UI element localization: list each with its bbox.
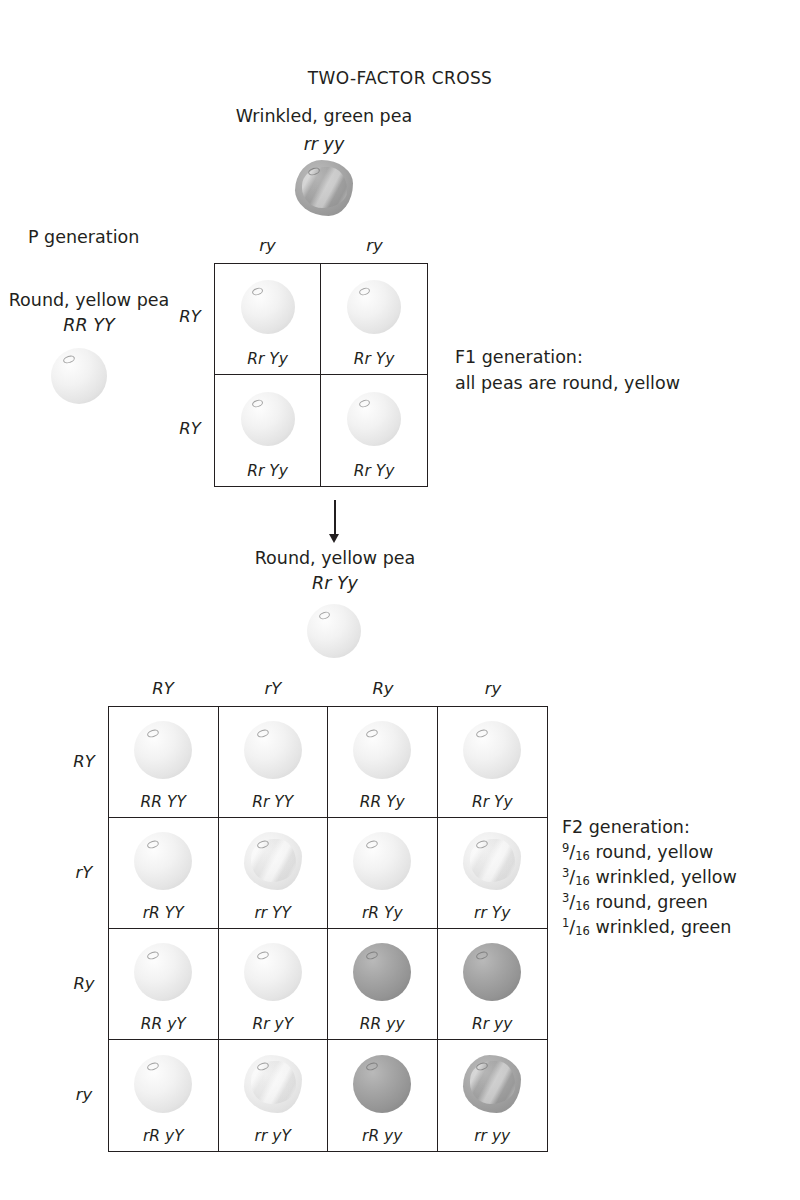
punnett-cell: Rr YY	[219, 707, 329, 818]
punnett-cell: Rr Yy	[321, 264, 427, 375]
fraction-numerator: 3	[562, 891, 569, 905]
punnett-cell-pea-slot	[463, 818, 521, 904]
fraction-numerator: 9	[562, 841, 569, 855]
punnett-cell-genotype: rR YY	[143, 904, 184, 922]
punnett-cell-genotype: Rr Yy	[354, 462, 395, 480]
fraction-numerator: 3	[562, 866, 569, 880]
cross1-row-header-0: RY	[172, 307, 208, 326]
punnett-cell-genotype: RR Yy	[360, 793, 405, 811]
f2-caption: F2 generation: 9/16 round, yellow3/16 wr…	[562, 815, 737, 940]
punnett-cell-pea-slot	[347, 375, 401, 462]
punnett-cell-pea-slot	[353, 707, 411, 793]
punnett-cell-pea-slot	[241, 264, 295, 350]
punnett-cell-pea-slot	[244, 929, 302, 1015]
cross2-row-header-2: Ry	[66, 974, 102, 993]
punnett-cell-genotype: Rr Yy	[247, 350, 288, 368]
fraction-denominator: 16	[575, 924, 590, 938]
round-yellow-pea	[241, 392, 295, 446]
round-yellow-pea	[353, 832, 411, 890]
punnett-cell-genotype: Rr Yy	[354, 350, 395, 368]
f2-caption-heading: F2 generation:	[562, 815, 737, 840]
punnett-cell-genotype: rr yy	[474, 1127, 510, 1145]
punnett-cell: Rr yy	[438, 929, 548, 1040]
punnett-cell: rr YY	[219, 818, 329, 929]
cross1-punnett-square: Rr YyRr YyRr YyRr Yy	[214, 263, 428, 487]
punnett-cell-pea-slot	[347, 264, 401, 350]
round-green-pea	[353, 1055, 411, 1113]
punnett-cell-pea-slot	[244, 1040, 302, 1127]
round-yellow-pea	[347, 280, 401, 334]
left-parent-pea	[51, 348, 107, 404]
punnett-cell: RR Yy	[328, 707, 438, 818]
top-parent-pea	[295, 160, 353, 216]
punnett-cell-genotype: rR yy	[362, 1127, 402, 1145]
p-generation-label: P generation	[28, 225, 139, 250]
punnett-cell-genotype: Rr YY	[252, 793, 293, 811]
punnett-cell: Rr Yy	[215, 375, 321, 486]
cross2-col-header-1: rY	[218, 679, 328, 698]
cross1-col-header-1: ry	[321, 236, 428, 255]
top-parent-genotype: rr yy	[124, 134, 524, 154]
arrow-shaft	[334, 500, 336, 537]
cross1-row-header-1: RY	[172, 419, 208, 438]
punnett-cell: Rr yY	[219, 929, 329, 1040]
round-yellow-pea	[134, 832, 192, 890]
cross2-col-header-2: Ry	[328, 679, 438, 698]
diagram-title: TWO-FACTOR CROSS	[0, 68, 800, 88]
wrinkled-yellow-pea	[244, 1055, 302, 1113]
punnett-cell-pea-slot	[353, 1040, 411, 1127]
f1-caption-line2: all peas are round, yellow	[455, 371, 680, 396]
punnett-cell-genotype: Rr Yy	[247, 462, 288, 480]
punnett-cell: rR yy	[328, 1040, 438, 1151]
punnett-cell-pea-slot	[244, 818, 302, 904]
punnett-cell-genotype: rR yY	[143, 1127, 184, 1145]
punnett-cell: rR yY	[109, 1040, 219, 1151]
round-yellow-pea	[244, 721, 302, 779]
punnett-cell: rR Yy	[328, 818, 438, 929]
f2-ratio-phenotype: wrinkled, yellow	[590, 867, 737, 887]
punnett-cell: rR YY	[109, 818, 219, 929]
punnett-cell-pea-slot	[134, 707, 192, 793]
fraction: 3/16	[562, 892, 590, 912]
punnett-cell: Rr Yy	[438, 707, 548, 818]
fraction: 1/16	[562, 917, 590, 937]
punnett-cell: Rr Yy	[321, 375, 427, 486]
f1-caption-line1: F1 generation:	[455, 345, 583, 370]
round-yellow-pea	[241, 280, 295, 334]
top-parent-phenotype: Wrinkled, green pea	[124, 104, 524, 129]
round-green-pea	[353, 943, 411, 1001]
punnett-cell-genotype: rr yY	[255, 1127, 291, 1145]
punnett-cell-genotype: RR YY	[141, 793, 186, 811]
f2-ratio-item: 9/16 round, yellow	[562, 840, 737, 865]
round-yellow-pea	[347, 392, 401, 446]
punnett-cell-genotype: Rr yy	[472, 1015, 512, 1033]
punnett-cell-genotype: Rr Yy	[472, 793, 513, 811]
punnett-cell-genotype: RR yy	[360, 1015, 405, 1033]
punnett-cell: rr Yy	[438, 818, 548, 929]
punnett-cell: Rr Yy	[215, 264, 321, 375]
punnett-cell-genotype: rr Yy	[474, 904, 510, 922]
cross2-punnett-square: RR YYRr YYRR YyRr YyrR YYrr YYrR Yyrr Yy…	[108, 706, 548, 1152]
f2-ratio-phenotype: wrinkled, green	[590, 917, 732, 937]
f1-offspring-phenotype: Round, yellow pea	[135, 546, 535, 571]
cross2-row-header-3: ry	[66, 1085, 102, 1104]
two-factor-cross-diagram: TWO-FACTOR CROSS Wrinkled, green pea rr …	[0, 0, 800, 1200]
punnett-cell-pea-slot	[134, 929, 192, 1015]
round-yellow-pea	[134, 1055, 192, 1113]
round-yellow-pea	[353, 721, 411, 779]
cross2-col-header-0: RY	[108, 679, 218, 698]
fraction: 9/16	[562, 842, 590, 862]
round-yellow-pea	[134, 721, 192, 779]
cross2-row-header-0: RY	[66, 752, 102, 771]
f2-ratio-list: 9/16 round, yellow3/16 wrinkled, yellow3…	[562, 840, 737, 940]
cross1-col-header-0: ry	[214, 236, 321, 255]
cross2-col-header-3: ry	[438, 679, 548, 698]
f2-ratio-item: 1/16 wrinkled, green	[562, 915, 737, 940]
punnett-cell: rr yy	[438, 1040, 548, 1151]
punnett-cell: RR yy	[328, 929, 438, 1040]
punnett-cell-pea-slot	[353, 818, 411, 904]
punnett-cell-pea-slot	[134, 1040, 192, 1127]
round-green-pea	[463, 943, 521, 1001]
fraction-numerator: 1	[562, 916, 569, 930]
wrinkled-yellow-pea	[463, 832, 521, 890]
